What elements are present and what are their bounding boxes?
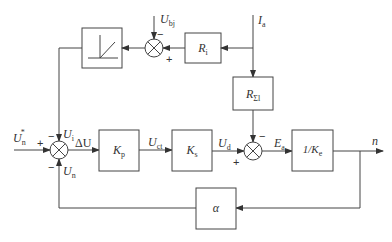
signal-delta-U: ΔU [75,137,91,149]
R-sigma-label: RΣl [233,88,273,103]
alpha-label: α [196,202,236,214]
signal-Ia: Ia [258,14,266,29]
limiter-block [82,28,122,68]
sign-main-minus-bottom: − [48,162,54,173]
signal-Ubj: Ubj [160,13,175,28]
signal-Un-star: Un* [13,131,30,147]
signal-Un: Un [63,165,76,180]
Kp-label: Kp [99,144,139,159]
Ri-label: Ri [185,42,221,57]
inverse-Ke-label: 1/Ke [292,144,333,158]
sign-ed-minus: − [259,131,265,142]
signal-n: n [372,135,378,147]
sign-bj-plus: + [166,54,172,65]
summing-junction-main [50,141,68,159]
signal-Uct: Uct [148,136,162,151]
signal-Ea: Ea [274,137,285,152]
Ks-label: Ks [172,144,212,159]
sign-main-plus: + [37,138,43,149]
sign-main-minus-top: − [48,131,54,142]
sign-ed-plus: + [233,157,239,168]
signal-Ud: Ud [218,137,231,152]
sign-bj-minus: − [157,29,163,40]
summing-junction-ed [244,142,262,160]
summing-junction-bj [145,39,163,57]
signal-Ui: Ui [63,128,74,143]
